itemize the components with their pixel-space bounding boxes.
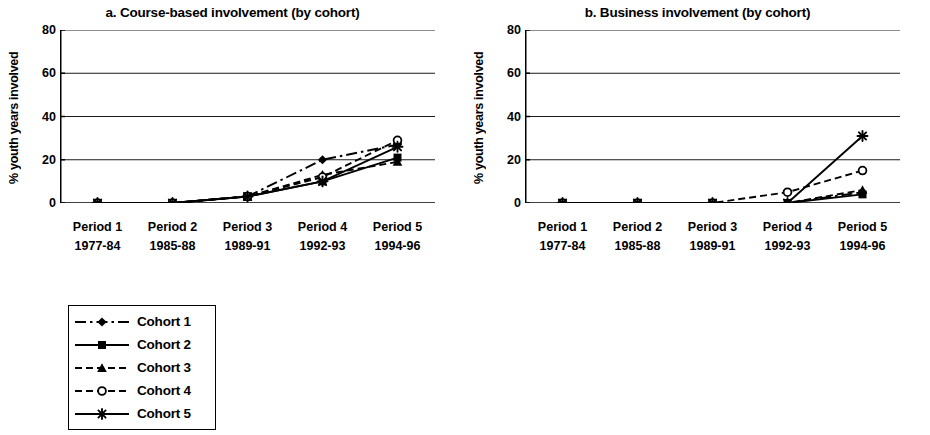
x-tick-label: Period 21985-88 — [613, 218, 662, 257]
asterisk-marker — [393, 142, 403, 152]
x-tick-label: Period 31989-91 — [223, 218, 272, 257]
chart-b-y-axis-label: % youth years involved — [469, 30, 489, 205]
chart-a-plot-area — [60, 30, 435, 203]
x-tick-label: Period 41992-93 — [298, 218, 347, 257]
chart-a-x-tick-labels: Period 11977-84Period 21985-88Period 319… — [60, 218, 435, 260]
legend-item: Cohort 5 — [73, 402, 209, 425]
x-tick-label: Period 41992-93 — [763, 218, 812, 257]
legend-label-cohort-2: Cohort 2 — [137, 337, 191, 352]
asterisk-marker — [633, 198, 643, 203]
asterisk-marker — [168, 198, 178, 203]
open-circle-marker — [859, 167, 867, 175]
legend-key-cohort-4 — [73, 381, 131, 401]
triangle-marker — [858, 185, 868, 194]
diamond-marker — [97, 317, 106, 326]
chart-a-title: a. Course-based involvement (by cohort) — [0, 5, 465, 20]
asterisk-marker — [318, 176, 328, 186]
y-tick-label: 40 — [507, 110, 521, 123]
legend-key-cohort-3 — [73, 358, 131, 378]
y-tick-label: 0 — [514, 197, 521, 210]
y-tick-label: 60 — [507, 67, 521, 80]
legend-label-cohort-5: Cohort 5 — [137, 406, 191, 421]
asterisk-marker — [558, 198, 568, 203]
y-tick-label: 20 — [507, 154, 521, 167]
legend-item: Cohort 4 — [73, 379, 209, 402]
asterisk-marker — [708, 198, 718, 203]
asterisk-marker — [783, 198, 793, 203]
legend-key-cohort-1 — [73, 312, 131, 332]
x-tick-label: Period 21985-88 — [148, 218, 197, 257]
chart-a-y-axis-label: % youth years involved — [4, 30, 24, 205]
chart-b-x-tick-labels: Period 11977-84Period 21985-88Period 319… — [525, 218, 900, 260]
chart-a-y-tick-labels: 020406080 — [24, 30, 56, 203]
legend-key-cohort-5 — [73, 404, 131, 424]
series-line — [563, 136, 863, 203]
legend-label-cohort-3: Cohort 3 — [137, 360, 191, 375]
x-tick-label: Period 11977-84 — [538, 218, 587, 257]
y-tick-label: 80 — [507, 24, 521, 37]
legend-item: Cohort 2 — [73, 333, 209, 356]
x-tick-label: Period 51994-96 — [373, 218, 422, 257]
diamond-marker — [318, 155, 327, 164]
chart-b-title: b. Business involvement (by cohort) — [465, 5, 930, 20]
chart-b-y-tick-labels: 020406080 — [489, 30, 521, 203]
open-circle-marker — [784, 188, 792, 196]
y-tick-label: 60 — [42, 67, 56, 80]
x-tick-label: Period 11977-84 — [73, 218, 122, 257]
asterisk-marker — [858, 131, 868, 141]
chart-panel-a: a. Course-based involvement (by cohort) … — [0, 0, 465, 280]
legend-item: Cohort 1 — [73, 310, 209, 333]
chart-b-plot-area — [525, 30, 900, 203]
asterisk-marker — [97, 409, 107, 419]
x-tick-label: Period 31989-91 — [688, 218, 737, 257]
square-marker — [98, 341, 106, 349]
y-tick-label: 40 — [42, 110, 56, 123]
legend-item: Cohort 3 — [73, 356, 209, 379]
legend-label-cohort-1: Cohort 1 — [137, 314, 191, 329]
x-tick-label: Period 51994-96 — [838, 218, 887, 257]
y-tick-label: 0 — [49, 197, 56, 210]
asterisk-marker — [93, 198, 103, 203]
legend-key-cohort-2 — [73, 335, 131, 355]
asterisk-marker — [243, 192, 253, 202]
y-tick-label: 20 — [42, 154, 56, 167]
y-tick-label: 80 — [42, 24, 56, 37]
legend-label-cohort-4: Cohort 4 — [137, 383, 191, 398]
open-circle-marker — [98, 387, 106, 395]
chart-legend: Cohort 1 Cohort 2 Cohort 3 Cohort 4 Coho… — [68, 305, 216, 430]
